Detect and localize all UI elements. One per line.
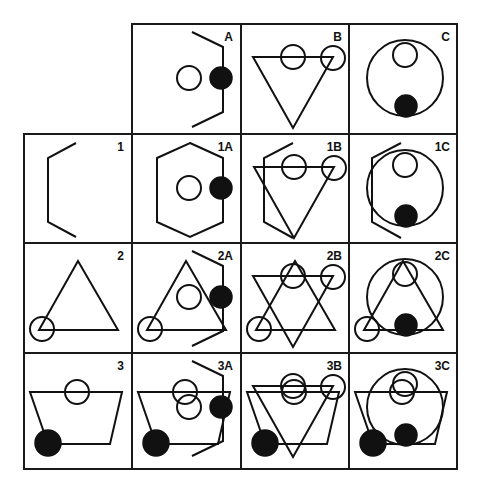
cell-label: 1A — [218, 140, 234, 154]
cell-label: C — [441, 30, 450, 44]
cell-1C: 1C — [367, 140, 450, 238]
cell-A: A — [177, 30, 233, 127]
cell-3A: 3A — [138, 359, 233, 456]
cell-label: A — [224, 30, 233, 44]
cell-1: 1 — [48, 140, 124, 237]
cell-label: 1 — [117, 140, 124, 154]
cell-2B: 2B — [247, 249, 345, 347]
cell-B: B — [253, 30, 345, 128]
cell-label: 1C — [435, 140, 451, 154]
cell-3: 3 — [30, 359, 124, 456]
cell-label: B — [333, 30, 342, 44]
cell-label: 3 — [117, 359, 124, 373]
grid-lines — [24, 24, 457, 469]
cell-2: 2 — [30, 249, 124, 341]
cell-label: 2 — [117, 249, 124, 263]
cell-3C: 3C — [355, 359, 450, 456]
cell-label: 3A — [218, 359, 234, 373]
cell-label: 1B — [327, 140, 343, 154]
cell-2C: 2C — [355, 249, 450, 341]
cell-C: C — [367, 30, 450, 117]
cell-label: 2B — [327, 249, 343, 263]
combination-puzzle-grid: A B C 1 1A 1B 1C 2 2A 2B — [0, 0, 480, 493]
cell-2A: 2A — [138, 249, 233, 346]
cell-1B: 1B — [254, 140, 346, 238]
cell-label: 2A — [218, 249, 234, 263]
cell-label: 3C — [435, 359, 451, 373]
cell-label: 3B — [327, 359, 343, 373]
cell-3B: 3B — [247, 359, 345, 457]
cell-1A: 1A — [157, 140, 233, 237]
cell-label: 2C — [435, 249, 451, 263]
